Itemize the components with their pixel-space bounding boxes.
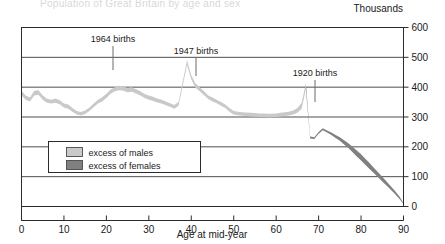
y-tick-label-200: 200 [412,141,429,152]
x-tick-label-80: 80 [355,224,367,235]
y-tick-label-100: 100 [412,171,429,182]
series-excess-of-males [22,60,306,117]
y-tick-label-500: 500 [412,52,429,63]
x-tick-label-90: 90 [398,224,410,235]
annotation-label-1947: 1947 births [174,46,219,56]
y-tick-label-300: 300 [412,112,429,123]
legend-label-females: excess of females [89,161,162,171]
series-excess-of-females [306,84,404,205]
annotation-label-1920: 1920 births [293,68,338,78]
population-age-sex-chart: Population of Great Britain by age and s… [0,0,445,244]
chart-canvas: 0100200300400500600 0102030405060708090 … [0,0,445,244]
legend-swatch-females [67,161,83,170]
x-tick-label-60: 60 [271,224,283,235]
x-tick-label-10: 10 [58,224,70,235]
legend-label-males: excess of males [89,148,154,158]
x-tick-label-0: 0 [19,224,25,235]
y-axis-unit-label: Thousands [354,3,403,14]
x-tick-label-70: 70 [313,224,325,235]
y-tick-label-0: 0 [412,201,418,212]
x-tick-label-20: 20 [101,224,113,235]
legend-swatch-males [67,148,83,157]
cut-off-figure-title: Population of Great Britain by age and s… [40,0,241,9]
annotation-label-1964: 1964 births [91,34,136,44]
x-tick-label-30: 30 [143,224,155,235]
y-axis: 0100200300400500600 [404,22,429,212]
y-tick-label-400: 400 [412,82,429,93]
chart-legend: excess of malesexcess of females [49,142,201,173]
y-tick-label-600: 600 [412,22,429,33]
x-axis-title: Age at mid-year [177,229,248,240]
